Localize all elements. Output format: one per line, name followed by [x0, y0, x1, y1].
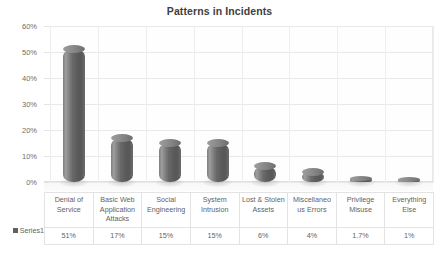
bar[interactable] — [98, 132, 146, 182]
category-label: Social Engineering — [142, 193, 191, 228]
bar[interactable] — [146, 137, 194, 182]
y-axis-tick: 50% — [22, 48, 37, 57]
bar-body — [302, 172, 324, 182]
chart-title: Patterns in Incidents — [0, 5, 439, 17]
legend-label: Series1 — [20, 226, 44, 235]
bar-body — [63, 49, 85, 182]
legend-swatch-icon — [13, 228, 18, 233]
bars-layer — [50, 26, 433, 191]
bar-body — [398, 179, 420, 182]
category-label: Miscellaneo us Errors — [288, 193, 337, 228]
category-label: Denial of Service — [45, 193, 94, 228]
category-label: Lost & Stolen Assets — [239, 193, 288, 228]
bar-top-cap — [207, 139, 229, 147]
bar[interactable] — [289, 166, 337, 182]
value-label: 51% — [45, 228, 94, 245]
bar-body — [254, 166, 276, 182]
value-label: 17% — [93, 228, 142, 245]
bar-top-cap — [159, 139, 181, 147]
value-label: 6% — [239, 228, 288, 245]
bar-top-cap — [254, 162, 276, 170]
bar[interactable] — [194, 137, 242, 182]
bar-body — [350, 178, 372, 182]
bar[interactable] — [50, 43, 98, 182]
table-row-values: 51%17%15%15%6%4%1.7%1% — [45, 228, 434, 245]
y-axis-tick: 10% — [22, 152, 37, 161]
category-label: Basic Web Application Attacks — [93, 193, 142, 228]
value-label: 15% — [142, 228, 191, 245]
y-axis: 60%50%40%30%20%10%0% — [0, 26, 40, 191]
category-label: Everything Else — [385, 193, 434, 228]
value-label: 4% — [288, 228, 337, 245]
gridline-vertical — [433, 26, 434, 183]
bar[interactable] — [242, 160, 290, 182]
value-label: 15% — [190, 228, 239, 245]
category-label: Privilege Misuse — [336, 193, 385, 228]
y-axis-tick: 0% — [26, 178, 37, 187]
legend-series1: Series1 — [2, 222, 44, 239]
bar-top-cap — [63, 45, 85, 53]
y-axis-tick: 40% — [22, 74, 37, 83]
bar-body — [111, 138, 133, 182]
bar-body — [207, 143, 229, 182]
bar-top-cap — [302, 168, 324, 176]
y-axis-tick: 20% — [22, 126, 37, 135]
value-label: 1.7% — [336, 228, 385, 245]
category-label: System Intrusion — [190, 193, 239, 228]
bar[interactable] — [337, 172, 385, 182]
table-row-categories: Denial of ServiceBasic Web Application A… — [45, 193, 434, 228]
bar-body — [159, 143, 181, 182]
y-axis-tick: 30% — [22, 100, 37, 109]
y-axis-tick: 60% — [22, 22, 37, 31]
bar[interactable] — [385, 173, 433, 182]
bar-top-cap — [350, 176, 372, 181]
bar-top-cap — [111, 134, 133, 142]
value-label: 1% — [385, 228, 434, 245]
data-table: Denial of ServiceBasic Web Application A… — [44, 192, 434, 245]
bar-top-cap — [398, 177, 420, 182]
chart-container: Patterns in Incidents 60%50%40%30%20%10%… — [0, 0, 439, 256]
